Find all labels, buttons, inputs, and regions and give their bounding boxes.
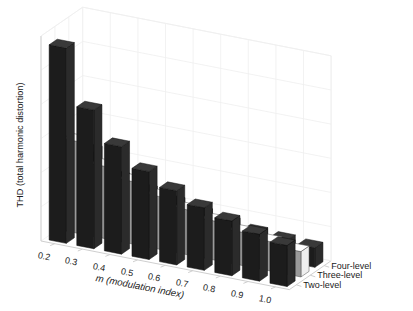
- x-tick-label: 1.0: [258, 293, 272, 305]
- x-tick-label: 0.7: [175, 277, 189, 289]
- bar: [242, 225, 267, 281]
- y-category-label: Two-level: [303, 280, 341, 290]
- x-tick-label: 0.9: [230, 288, 244, 300]
- bar: [104, 138, 129, 254]
- bar: [215, 212, 240, 276]
- bar: [270, 237, 295, 287]
- bar: [77, 101, 102, 249]
- x-tick-label: 0.5: [120, 266, 134, 278]
- bar: [132, 163, 157, 260]
- x-tick-label: 0.2: [37, 250, 51, 262]
- bar: [160, 182, 185, 265]
- y-category-label: Three-level: [317, 270, 362, 280]
- x-tick-label: 0.4: [92, 261, 106, 273]
- bar: [187, 199, 212, 270]
- figure-canvas: THD (total harmonic distortion) m (modul…: [0, 0, 413, 311]
- x-tick-label: 0.8: [202, 282, 216, 294]
- y-category-label: Four-level: [331, 261, 371, 271]
- x-tick-label: 0.3: [64, 255, 78, 267]
- z-axis-label: THD (total harmonic distortion): [15, 55, 25, 235]
- bar: [49, 39, 74, 243]
